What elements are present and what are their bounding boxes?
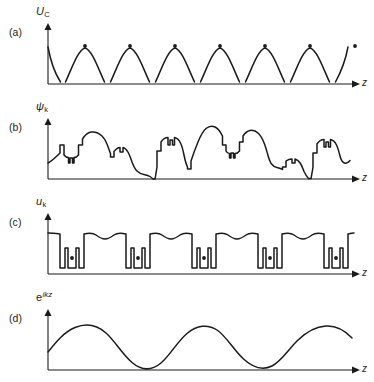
panel-a-ion-dot xyxy=(173,44,177,48)
panel-a-plot xyxy=(0,0,374,95)
panel-c-ion-dot xyxy=(334,256,338,260)
panel-c-x-axis-arrow xyxy=(352,271,360,278)
panel-a-ion-dot xyxy=(308,44,312,48)
panel-c-ion-dot xyxy=(136,256,140,260)
panel-c-periodic-amplitude: (c) uk z xyxy=(0,190,374,285)
panel-a-ion-dot xyxy=(83,44,87,48)
panel-a-potential-curve xyxy=(48,47,348,82)
panel-b-bloch-wavefunction: (b) ψk z xyxy=(0,95,374,190)
panel-c-plot xyxy=(0,190,374,285)
panel-a-coulomb-potential: (a) UC z xyxy=(0,0,374,95)
panel-d-x-axis-arrow xyxy=(352,367,360,374)
panel-d-plot xyxy=(0,286,374,381)
panel-d-plane-wave: (d) eikz z xyxy=(0,286,374,381)
panel-b-y-axis-arrow xyxy=(45,118,52,125)
panel-a-ion-dot xyxy=(218,44,222,48)
panel-c-ion-dot xyxy=(70,256,74,260)
panel-c-y-axis-arrow xyxy=(45,213,52,220)
panel-a-ion-dot xyxy=(263,44,267,48)
panel-a-y-axis-arrow xyxy=(45,23,52,30)
panel-b-wavefunction-curve xyxy=(48,126,350,179)
panel-d-y-axis-arrow xyxy=(45,309,52,316)
panel-c-amplitude-curve xyxy=(48,233,354,268)
panel-a-ion-dot xyxy=(128,44,132,48)
panel-b-plot xyxy=(0,95,374,190)
bloch-theorem-figure: (a) UC z (b) ψk z xyxy=(0,0,374,382)
panel-c-ion-dot xyxy=(202,256,206,260)
panel-b-x-axis-arrow xyxy=(352,176,360,183)
panel-d-plane-wave-curve xyxy=(48,325,352,369)
panel-c-ion-dot xyxy=(268,256,272,260)
panel-a-x-axis-arrow xyxy=(352,81,360,88)
panel-a-ion-dot xyxy=(353,44,357,48)
